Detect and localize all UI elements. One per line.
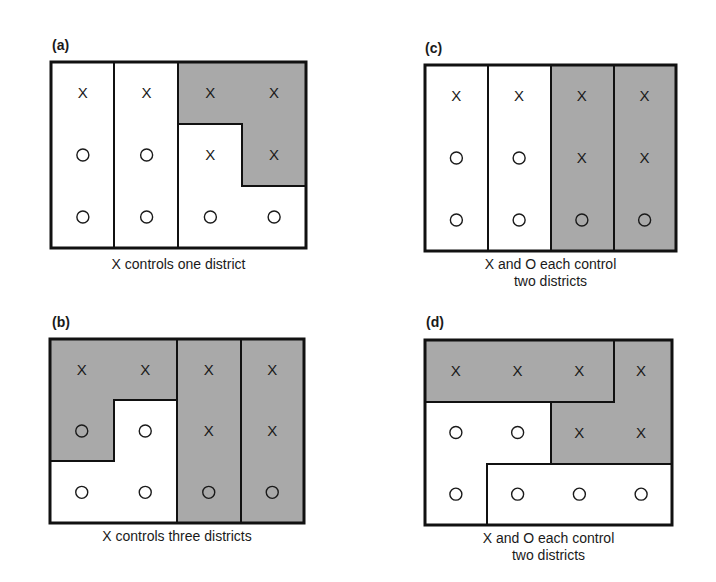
voter-symbols: XXXXXXXXXXXXXXXXXXXXXXXX bbox=[0, 0, 716, 582]
voter-o-icon bbox=[512, 488, 524, 500]
voter-x-icon: X bbox=[451, 362, 461, 379]
voter-o-icon bbox=[576, 214, 588, 226]
voter-o-icon bbox=[141, 211, 153, 223]
voter-o-icon bbox=[512, 427, 524, 439]
voter-x-icon: X bbox=[267, 361, 277, 378]
voter-x-icon: X bbox=[205, 146, 215, 163]
voter-x-icon: X bbox=[269, 146, 279, 163]
voter-o-icon bbox=[513, 214, 525, 226]
voter-o-icon bbox=[76, 425, 88, 437]
voter-x-icon: X bbox=[204, 361, 214, 378]
voter-o-icon bbox=[266, 486, 278, 498]
voter-x-icon: X bbox=[140, 361, 150, 378]
voter-o-icon bbox=[573, 488, 585, 500]
voter-x-icon: X bbox=[451, 87, 461, 104]
voter-x-icon: X bbox=[640, 149, 650, 166]
voter-o-icon bbox=[139, 425, 151, 437]
voter-x-icon: X bbox=[574, 424, 584, 441]
voter-x-icon: X bbox=[640, 87, 650, 104]
voter-o-icon bbox=[204, 211, 216, 223]
voter-o-icon bbox=[139, 486, 151, 498]
voter-x-icon: X bbox=[636, 362, 646, 379]
voter-o-icon bbox=[203, 486, 215, 498]
voter-x-icon: X bbox=[142, 84, 152, 101]
voter-x-icon: X bbox=[513, 362, 523, 379]
voter-o-icon bbox=[635, 488, 647, 500]
voter-x-icon: X bbox=[205, 84, 215, 101]
voter-o-icon bbox=[268, 211, 280, 223]
voter-o-icon bbox=[450, 427, 462, 439]
voter-o-icon bbox=[141, 149, 153, 161]
voter-x-icon: X bbox=[577, 149, 587, 166]
voter-o-icon bbox=[77, 149, 89, 161]
voter-o-icon bbox=[76, 486, 88, 498]
voter-x-icon: X bbox=[269, 84, 279, 101]
voter-x-icon: X bbox=[204, 422, 214, 439]
voter-x-icon: X bbox=[636, 424, 646, 441]
voter-x-icon: X bbox=[577, 87, 587, 104]
voter-x-icon: X bbox=[514, 87, 524, 104]
voter-o-icon bbox=[639, 214, 651, 226]
voter-x-icon: X bbox=[267, 422, 277, 439]
voter-o-icon bbox=[450, 488, 462, 500]
voter-o-icon bbox=[450, 214, 462, 226]
voter-x-icon: X bbox=[78, 84, 88, 101]
voter-x-icon: X bbox=[574, 362, 584, 379]
voter-o-icon bbox=[513, 152, 525, 164]
voter-o-icon bbox=[450, 152, 462, 164]
voter-o-icon bbox=[77, 211, 89, 223]
voter-x-icon: X bbox=[77, 361, 87, 378]
